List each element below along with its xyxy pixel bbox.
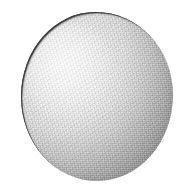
sphere-object <box>21 12 173 181</box>
sphere-rim-outline <box>21 12 173 181</box>
figure-canvas: Grayscale photograph of a single rounded… <box>0 0 185 189</box>
